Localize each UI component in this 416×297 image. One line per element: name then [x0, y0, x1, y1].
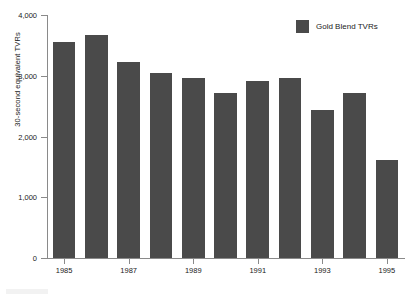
x-axis-tick-label: 1989 [173, 266, 213, 275]
bar [117, 62, 140, 258]
y-axis-tick-label: 1,000 [0, 193, 37, 202]
bar-chart: 30-second equivalent TVRs 01,0002,0003,0… [0, 0, 416, 297]
x-axis-tick-label: 1985 [44, 266, 84, 275]
legend-swatch-gold-blend-tvrs [296, 20, 309, 33]
bar [150, 73, 173, 258]
y-axis-tick [41, 15, 47, 16]
y-axis-tick [41, 137, 47, 138]
bar [376, 160, 399, 258]
x-axis-tick-label: 1995 [367, 266, 407, 275]
bar [85, 35, 108, 258]
cropped-title-sliver [48, 0, 378, 3]
bar [311, 110, 334, 258]
bar [246, 81, 269, 258]
y-axis-tick [41, 258, 47, 259]
bar [182, 78, 205, 258]
bar-series-gold-blend-tvrs [48, 15, 403, 258]
x-axis-tick [322, 259, 323, 264]
y-axis-tick-label: 0 [0, 254, 37, 263]
x-axis-tick [387, 259, 388, 264]
scan-artifact [6, 289, 48, 294]
x-axis-tick-label: 1991 [238, 266, 278, 275]
x-axis-tick-label: 1993 [302, 266, 342, 275]
y-axis-tick [41, 197, 47, 198]
y-axis-tick-label: 2,000 [0, 132, 37, 141]
x-axis-tick-label: 1987 [109, 266, 149, 275]
legend: Gold Blend TVRs [296, 20, 378, 33]
y-axis-tick [41, 76, 47, 77]
bar [343, 93, 366, 258]
bar [279, 78, 302, 258]
x-axis-tick [193, 259, 194, 264]
x-axis-tick [129, 259, 130, 264]
x-axis-line [47, 258, 405, 259]
bar [214, 93, 237, 258]
x-axis-tick [258, 259, 259, 264]
y-axis-tick-label: 3,000 [0, 71, 37, 80]
legend-label-gold-blend-tvrs: Gold Blend TVRs [316, 22, 378, 31]
x-axis-tick [64, 259, 65, 264]
y-axis-tick-label: 4,000 [0, 11, 37, 20]
bar [53, 42, 76, 258]
